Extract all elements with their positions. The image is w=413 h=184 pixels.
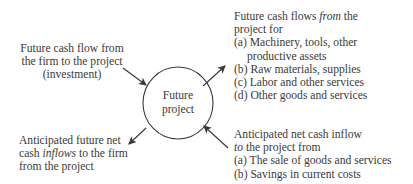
outflows-item-d: (d) Other goods and services — [234, 89, 367, 102]
outflows-item-b: (b) Raw materials, supplies — [234, 63, 367, 76]
center-line-1: Future — [143, 89, 213, 103]
investment-text: Future cash flow from the firm to the pr… — [14, 42, 130, 82]
project-inflow-line-1: Anticipated net cash inflow — [234, 128, 392, 141]
outflows-line-2: project for — [234, 23, 367, 36]
investment-line-3: (investment) — [14, 68, 130, 81]
project-inflow-line-2: to the project from — [234, 141, 392, 154]
outflows-item-a-cont: productive assets — [234, 50, 367, 63]
outflows-item-a: (a) Machinery, tools, other — [234, 36, 367, 49]
net-inflows-text: Anticipated future net cash inflows to t… — [19, 134, 128, 174]
center-line-2: project — [143, 103, 213, 117]
inflows-line-2: cash inflows to the firm — [19, 147, 128, 160]
project-inflow-text: Anticipated net cash inflow to the proje… — [234, 128, 392, 181]
arrow-cash-flows-out — [203, 66, 225, 86]
inflows-line-3: from the project — [19, 160, 128, 173]
cash-outflows-text: Future cash flows from the project for (… — [234, 10, 367, 102]
project-inflow-item-b: (b) Savings in current costs — [234, 168, 392, 181]
future-project-label: Future project — [143, 89, 213, 117]
investment-line-2: the firm to the project — [14, 55, 130, 68]
arrow-net-inflow-in — [204, 126, 228, 148]
outflows-line-1: Future cash flows from the — [234, 10, 367, 23]
arrow-net-inflows-out — [129, 128, 146, 144]
outflows-item-c: (c) Labor and other services — [234, 76, 367, 89]
inflows-line-1: Anticipated future net — [19, 134, 128, 147]
investment-line-1: Future cash flow from — [14, 42, 130, 55]
project-inflow-item-a: (a) The sale of goods and services — [234, 154, 392, 167]
